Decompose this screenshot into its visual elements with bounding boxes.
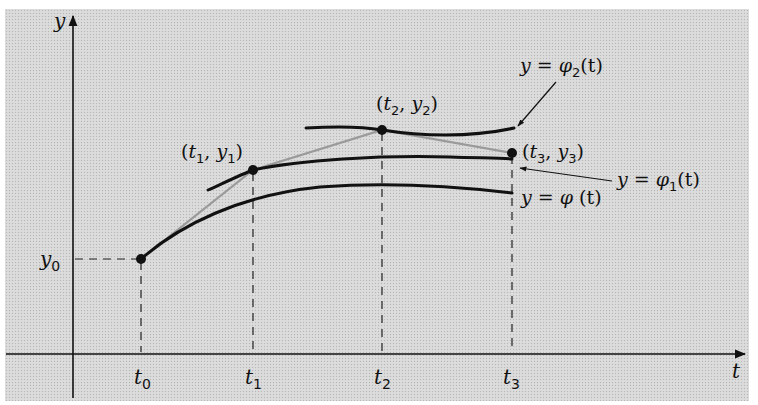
tick-t0: t0 [134, 365, 151, 392]
t-axis-label: t [732, 359, 741, 383]
euler-polygon [141, 130, 512, 259]
label-phi: y = φ (t) [520, 186, 602, 208]
point-t0-y0 [136, 254, 146, 264]
axes [6, 16, 745, 398]
tick-t1: t1 [245, 365, 262, 392]
label-phi2: y = φ2(t) [519, 54, 603, 80]
label-phi1: y = φ1(t) [616, 168, 700, 194]
phi2-arrow [518, 82, 556, 126]
euler-method-diagram: y t y0 t0 t1 t2 t3 (t1, y1) (t2, y2) (t3… [0, 0, 758, 405]
curve-phi2 [306, 127, 514, 135]
point-t1-y1 [248, 165, 258, 175]
curve-phi [141, 185, 512, 259]
dashed-guides [75, 133, 512, 352]
tick-t3: t3 [503, 365, 520, 392]
y0-label: y0 [39, 247, 60, 274]
point-label-t1-y1: (t1, y1) [181, 140, 243, 166]
phi1-arrow [520, 168, 612, 181]
point-label-t2-y2: (t2, y2) [376, 92, 438, 118]
y-axis-label: y [53, 9, 66, 33]
point-t3-y3 [507, 148, 517, 158]
point-label-t3-y3: (t3, y3) [522, 140, 584, 166]
point-t2-y2 [377, 125, 387, 135]
tick-t2: t2 [374, 365, 391, 392]
